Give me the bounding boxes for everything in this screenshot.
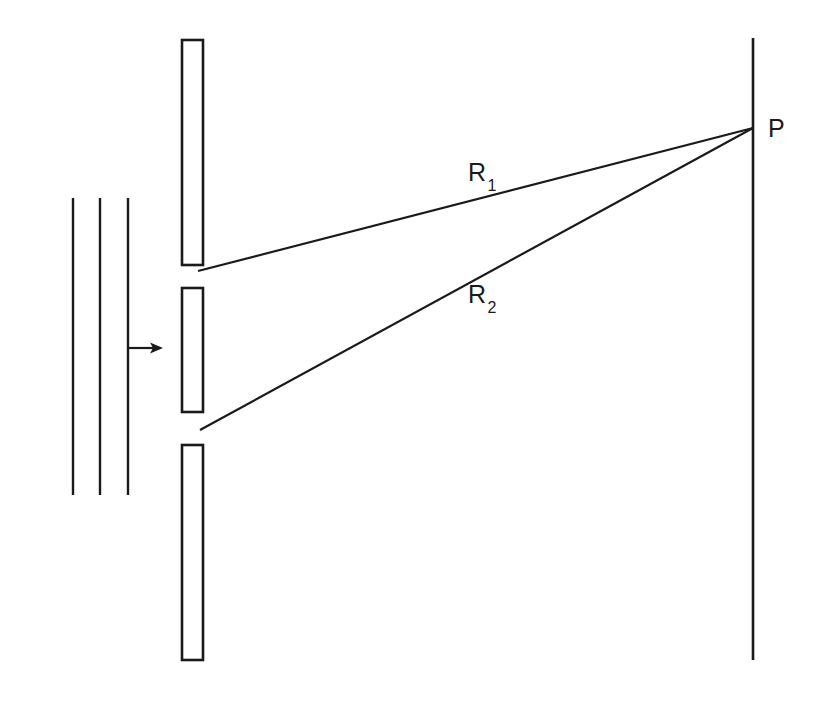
diffraction-diagram: R1 R2 P (0, 0, 819, 704)
barrier-group (182, 40, 203, 660)
ray-label-r1-base: R (468, 158, 487, 186)
middle-barrier-segment (182, 288, 203, 412)
upper-barrier-segment (182, 40, 203, 265)
arrow-right-icon (129, 343, 163, 354)
ray-label-r2-subscript: 2 (488, 299, 497, 316)
ray-label-r2-base: R (468, 280, 487, 308)
ray-r1 (198, 128, 753, 271)
point-label-p: P (768, 114, 785, 143)
diagram-canvas (0, 0, 819, 704)
ray-label-r1: R1 (468, 158, 496, 191)
ray-label-r1-subscript: 1 (488, 177, 497, 194)
wavefront-group (73, 198, 128, 495)
ray-label-r2: R2 (468, 280, 496, 313)
lower-barrier-segment (182, 445, 203, 660)
